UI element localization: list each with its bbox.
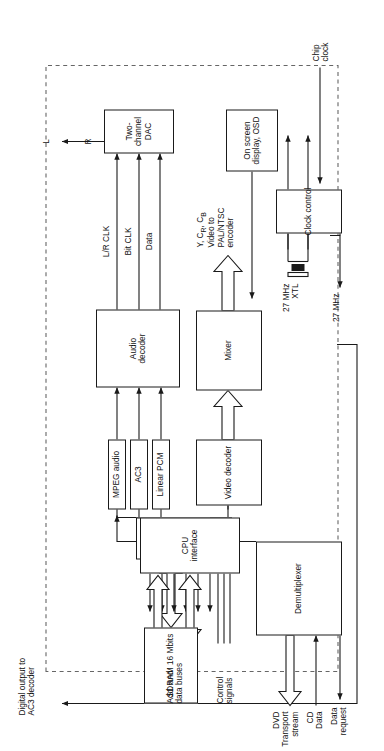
block-video-decoder-label: Video decoder — [224, 445, 233, 498]
block-mpeg-audio[interactable]: MPEG audio — [108, 439, 126, 509]
block-ac3-label: AC3 — [134, 466, 143, 482]
label-cd-data: CD Data — [306, 711, 325, 751]
label-27mhz-out: 27 MHz — [332, 293, 341, 343]
block-clock-control-label: Clock control — [304, 187, 313, 235]
label-lr-clk: L/R CLK — [102, 213, 111, 269]
label-data: Data — [145, 213, 154, 269]
block-mpeg-audio-label: MPEG audio — [112, 450, 121, 497]
label-cb-subscript: B — [200, 212, 207, 217]
label-left-output: L — [42, 133, 51, 149]
label-chip-clock: Chip clock — [312, 15, 331, 61]
label-dvd-transport-stream: DVD Transport stream — [272, 711, 300, 751]
block-audio-decoder[interactable]: Audio decoder — [96, 309, 180, 387]
label-right-output: R — [84, 133, 93, 149]
label-video-output: Y, CR, CBVideo to PAL/NTSC encoder — [196, 151, 235, 247]
label-bit-clk: Bit CLK — [124, 213, 133, 269]
block-audio-decoder-label: Audio decoder — [129, 333, 148, 363]
block-clock-control[interactable]: Clock control — [276, 189, 342, 233]
label-data-request: Data request — [330, 707, 349, 751]
block-mixer-label: Mixer — [224, 340, 233, 360]
block-video-decoder[interactable]: Video decoder — [196, 439, 262, 505]
block-demultiplexer[interactable]: Demultiplexer — [256, 541, 342, 635]
block-cpu-interface[interactable]: CPU interface — [140, 517, 240, 573]
block-demultiplexer-label: Demultiplexer — [294, 563, 303, 614]
block-mixer[interactable]: Mixer — [196, 310, 262, 390]
block-cpu-interface-label: CPU interface — [181, 529, 200, 561]
block-ac3[interactable]: AC3 — [130, 439, 148, 509]
label-digital-output-ac3: Digital output to AC3 decoder — [18, 585, 37, 715]
label-control-signals: Control signals — [216, 647, 235, 703]
block-two-channel-dac[interactable]: Two- channel DAC — [104, 109, 174, 153]
block-osd-label: On screen display, OSD — [243, 116, 262, 164]
label-video-output-destination: Video to PAL/NTSC encoder — [207, 151, 235, 247]
label-27mhz-xtl: 27 MHz XTL — [282, 283, 301, 343]
label-add-data-buses: Add. and data buses — [166, 643, 185, 703]
block-two-channel-dac-label: Two- channel DAC — [125, 116, 153, 145]
block-linear-pcm[interactable]: Linear PCM — [152, 439, 170, 509]
block-linear-pcm-label: Linear PCM — [156, 452, 165, 496]
